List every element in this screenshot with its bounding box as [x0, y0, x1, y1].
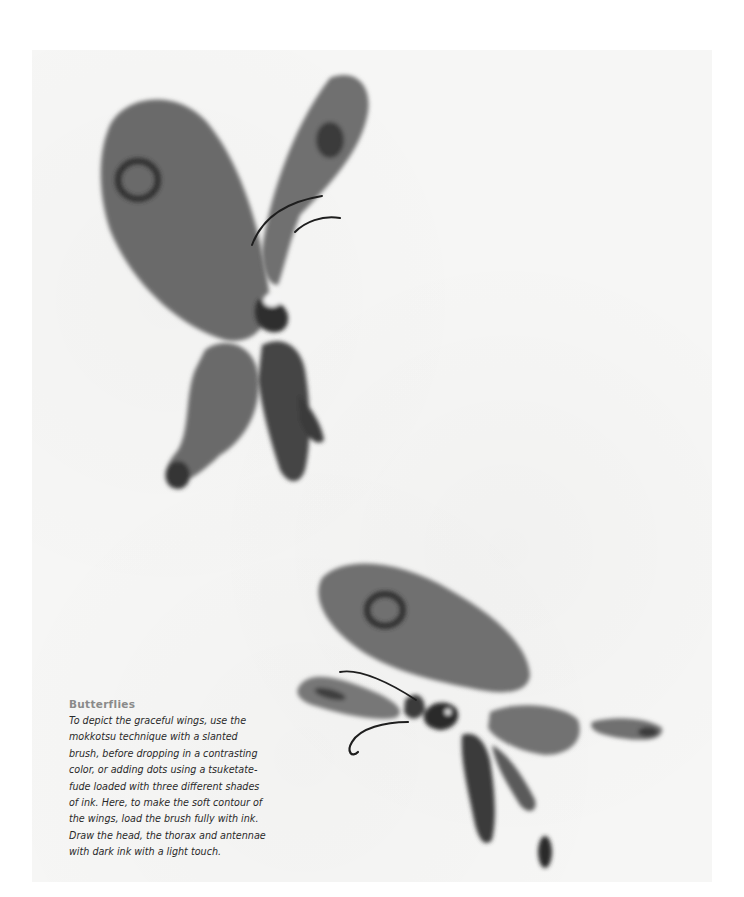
forewing-upper [318, 564, 530, 693]
hindwing-right [258, 341, 324, 481]
wing-tip-right [591, 718, 662, 740]
forewing-right [262, 75, 369, 285]
forewing-left [101, 99, 270, 340]
butterfly-bottom [297, 564, 662, 868]
caption-block: Butterflies To depict the graceful wings… [69, 698, 299, 861]
forewing-left [297, 677, 400, 719]
hindwing-right [488, 705, 580, 755]
caption-body: To depict the graceful wings, use the mo… [69, 713, 299, 861]
butterfly-top [101, 75, 369, 489]
caption-title: Butterflies [69, 698, 299, 710]
thorax [404, 695, 458, 730]
hindwing-left [165, 343, 258, 489]
